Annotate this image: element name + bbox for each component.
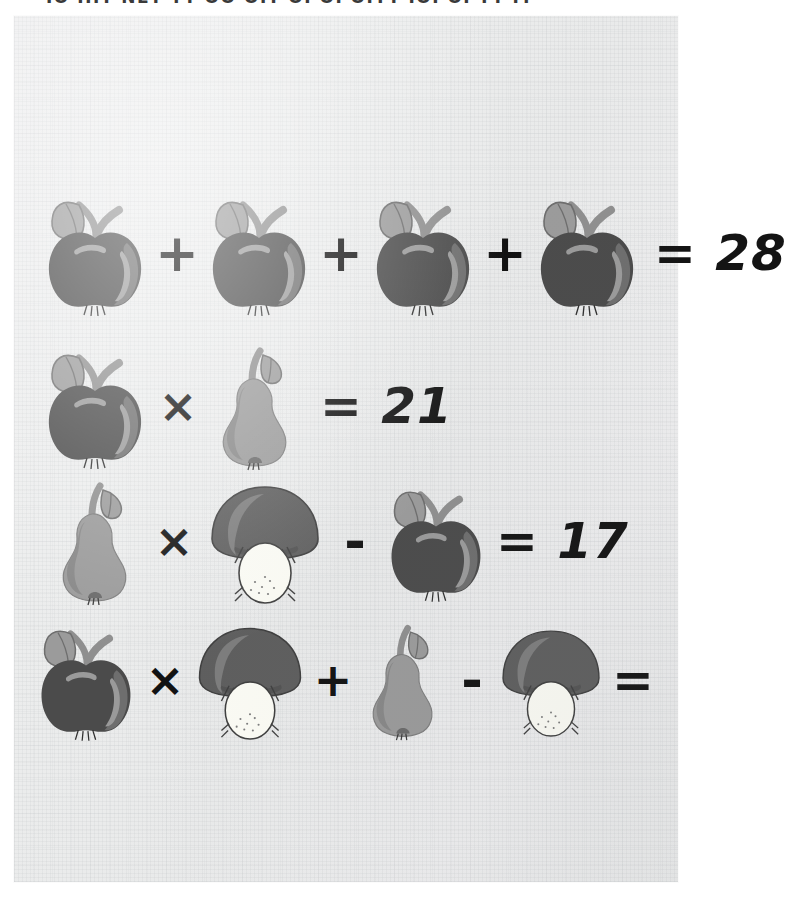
- pear-1: [202, 341, 308, 471]
- apple-2: [200, 188, 318, 318]
- apple-6: [380, 477, 492, 605]
- mushroom-icon: [494, 618, 608, 742]
- mushroom-icon: [202, 477, 328, 605]
- pear-icon: [205, 341, 305, 471]
- equation-4-result: =: [612, 655, 655, 705]
- operator-plus: +: [154, 227, 200, 279]
- apple-1: [36, 188, 154, 318]
- operator-times: ×: [154, 383, 202, 429]
- apple-7: [30, 616, 142, 744]
- mushroom-1: [200, 477, 330, 605]
- pear-3: [354, 618, 452, 742]
- operator-minus: -: [452, 654, 492, 706]
- pear-icon: [356, 618, 450, 742]
- operator-plus: +: [482, 227, 528, 279]
- cut-off-heading: IO HIT NET TT OO OIT OI OI OITT IOI OI T…: [46, 0, 534, 7]
- apple-3: [364, 188, 482, 318]
- puzzle-sheet: + +: [14, 16, 678, 882]
- equation-3-result: = 17: [496, 516, 629, 566]
- operator-times: ×: [142, 657, 188, 703]
- apple-icon: [531, 188, 643, 318]
- pear-2: [42, 476, 148, 606]
- apple-icon: [39, 188, 151, 318]
- mushroom-3: [492, 618, 610, 742]
- equation-row-3: ×: [14, 476, 678, 606]
- scan-top-cut-text-strip: IO HIT NET TT OO OIT OI OI OITT IOI OI T…: [0, 0, 692, 12]
- apple-icon: [382, 477, 490, 605]
- apple-icon: [203, 188, 315, 318]
- mushroom-2: [188, 618, 312, 742]
- equation-row-2: × = 21: [14, 341, 678, 471]
- operator-times: ×: [148, 518, 200, 564]
- mushroom-icon: [190, 618, 310, 742]
- apple-4: [528, 188, 646, 318]
- apple-icon: [367, 188, 479, 318]
- operator-minus: -: [330, 515, 380, 567]
- apple-icon: [32, 616, 140, 744]
- operator-plus: +: [312, 657, 354, 703]
- pear-icon: [45, 476, 145, 606]
- equation-1-result: = 28: [654, 228, 787, 278]
- apple-5: [36, 341, 154, 471]
- apple-icon: [39, 341, 151, 471]
- equation-row-4: ×: [14, 616, 678, 744]
- equation-2-result: = 21: [320, 381, 453, 431]
- operator-plus: +: [318, 227, 364, 279]
- equation-row-1: + +: [14, 188, 678, 318]
